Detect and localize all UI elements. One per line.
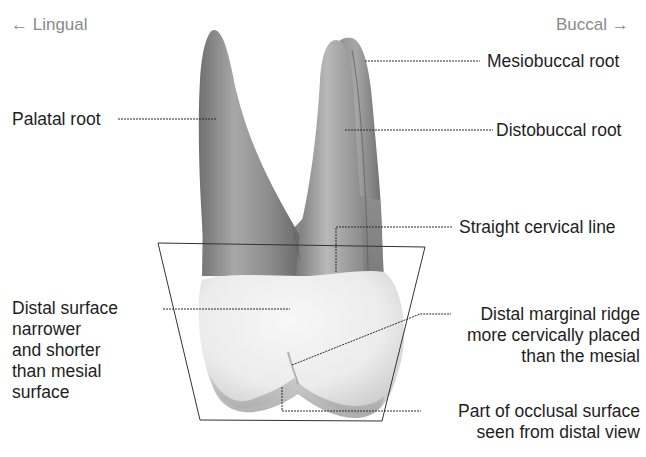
distal-marginal-ridge-label: Distal marginal ridge more cervically pl… xyxy=(467,304,640,367)
cervical-line-label: Straight cervical line xyxy=(459,217,616,238)
distal-surface-label: Distal surface narrower and shorter than… xyxy=(12,298,118,403)
tooth-diagram: ← Lingual Buccal → Mesiobuccal root Pala… xyxy=(0,0,646,457)
distobuccal-root-label: Distobuccal root xyxy=(496,120,621,141)
lingual-direction-label: ← Lingual xyxy=(11,14,88,35)
palatal-root-label: Palatal root xyxy=(12,109,101,130)
occlusal-surface-label: Part of occlusal surface seen from dista… xyxy=(458,401,640,443)
buccal-direction-label: Buccal → xyxy=(556,14,629,35)
mesiobuccal-root-label: Mesiobuccal root xyxy=(487,51,619,72)
palatal-root-shape xyxy=(199,30,300,276)
